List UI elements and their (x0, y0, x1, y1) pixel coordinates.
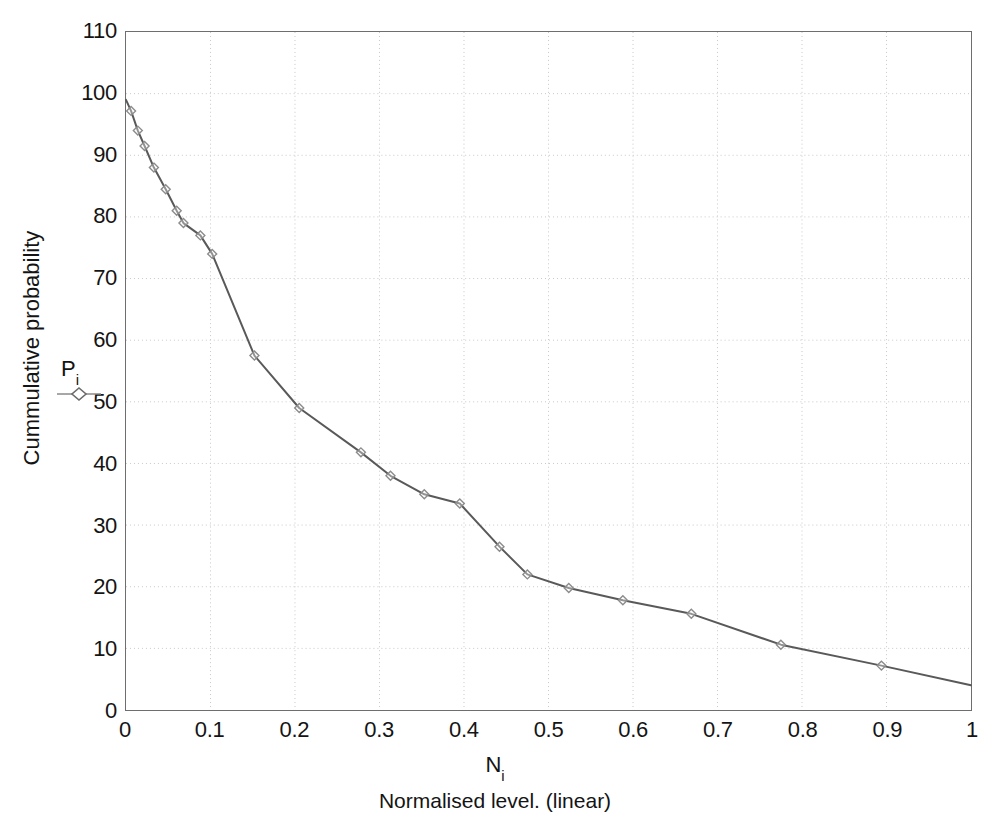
y-tick-label: 10 (93, 638, 117, 660)
plot-area (125, 31, 972, 711)
x-tick-label: 0.3 (364, 719, 394, 741)
series-key-marker-icon (55, 385, 105, 403)
series-key-pi: Pi (55, 356, 115, 416)
x-axis-label-base: N (485, 752, 501, 777)
y-tick-label: 30 (93, 515, 117, 537)
y-tick-label: 80 (93, 205, 117, 227)
series-key-label-base: P (61, 356, 76, 381)
x-axis-label: Ni (0, 752, 990, 780)
y-tick-label: 110 (83, 20, 117, 42)
y-tick-label: 100 (81, 82, 117, 104)
x-tick-label: 0.9 (872, 719, 902, 741)
x-tick-label: 0 (119, 719, 131, 741)
y-tick-label: 40 (93, 453, 117, 475)
x-tick-label: 0.8 (788, 719, 818, 741)
y-tick-label: 60 (93, 329, 117, 351)
x-tick-label: 0.6 (618, 719, 648, 741)
x-tick-label: 0.1 (195, 719, 225, 741)
y-tick-label: 90 (93, 144, 117, 166)
x-tick-label: 1 (966, 719, 978, 741)
x-tick-label: 0.7 (703, 719, 733, 741)
x-axis-label-subscript: i (501, 767, 504, 784)
y-tick-label: 20 (93, 576, 117, 598)
x-tick-label: 0.2 (280, 719, 310, 741)
x-axis-ticks: 00.10.20.30.40.50.60.70.80.91 (0, 719, 990, 753)
series-key-label: Pi (61, 356, 79, 384)
x-tick-label: 0.4 (449, 719, 479, 741)
x-tick-label: 0.5 (534, 719, 564, 741)
x-axis-description: Normalised level. (linear) (0, 789, 990, 813)
chart-figure: 0102030405060708090100110 00.10.20.30.40… (0, 0, 990, 825)
y-axis-label: Cummulative probability (19, 148, 45, 548)
data-series-pi (126, 32, 971, 710)
y-tick-label: 70 (93, 267, 117, 289)
